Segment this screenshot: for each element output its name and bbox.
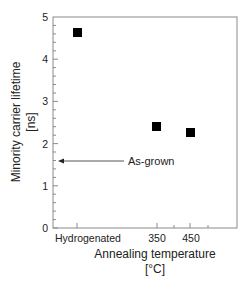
x-tick-hydrogenated: Hydrogenated: [55, 232, 121, 244]
x-tick-450: 450: [182, 232, 200, 244]
y-axis-title-group: Minority carrier lifetime [ns]: [9, 61, 38, 182]
x-axis-tick-labels: Hydrogenated 350 450: [55, 232, 200, 244]
y-tick-1: 1: [42, 180, 48, 192]
arrow-head-icon: [58, 159, 64, 164]
x-tick-350: 350: [148, 232, 166, 244]
y-axis-ticks: [53, 25, 58, 228]
x-axis-ticks: [77, 223, 208, 228]
y-axis-unit: [ns]: [24, 112, 38, 131]
as-grown-annotation: As-grown: [58, 155, 174, 167]
plot-frame: [53, 17, 237, 228]
x-axis-title: Annealing temperature: [94, 247, 216, 261]
chart: 0 1 2 3 4 5 Hydrogenated 350 450 Anneali…: [0, 0, 251, 282]
marker-350: [152, 122, 161, 131]
as-grown-label: As-grown: [128, 155, 174, 167]
y-tick-3: 3: [42, 95, 48, 107]
marker-hydrogenated: [73, 28, 82, 37]
marker-450: [186, 128, 195, 137]
data-series: [73, 28, 195, 137]
y-tick-4: 4: [42, 53, 48, 65]
y-axis-title: Minority carrier lifetime: [9, 61, 23, 182]
y-tick-0: 0: [42, 222, 48, 234]
y-tick-5: 5: [42, 11, 48, 23]
y-tick-2: 2: [42, 138, 48, 150]
y-axis-tick-labels: 0 1 2 3 4 5: [42, 11, 48, 234]
x-axis-unit: [°C]: [145, 262, 165, 276]
